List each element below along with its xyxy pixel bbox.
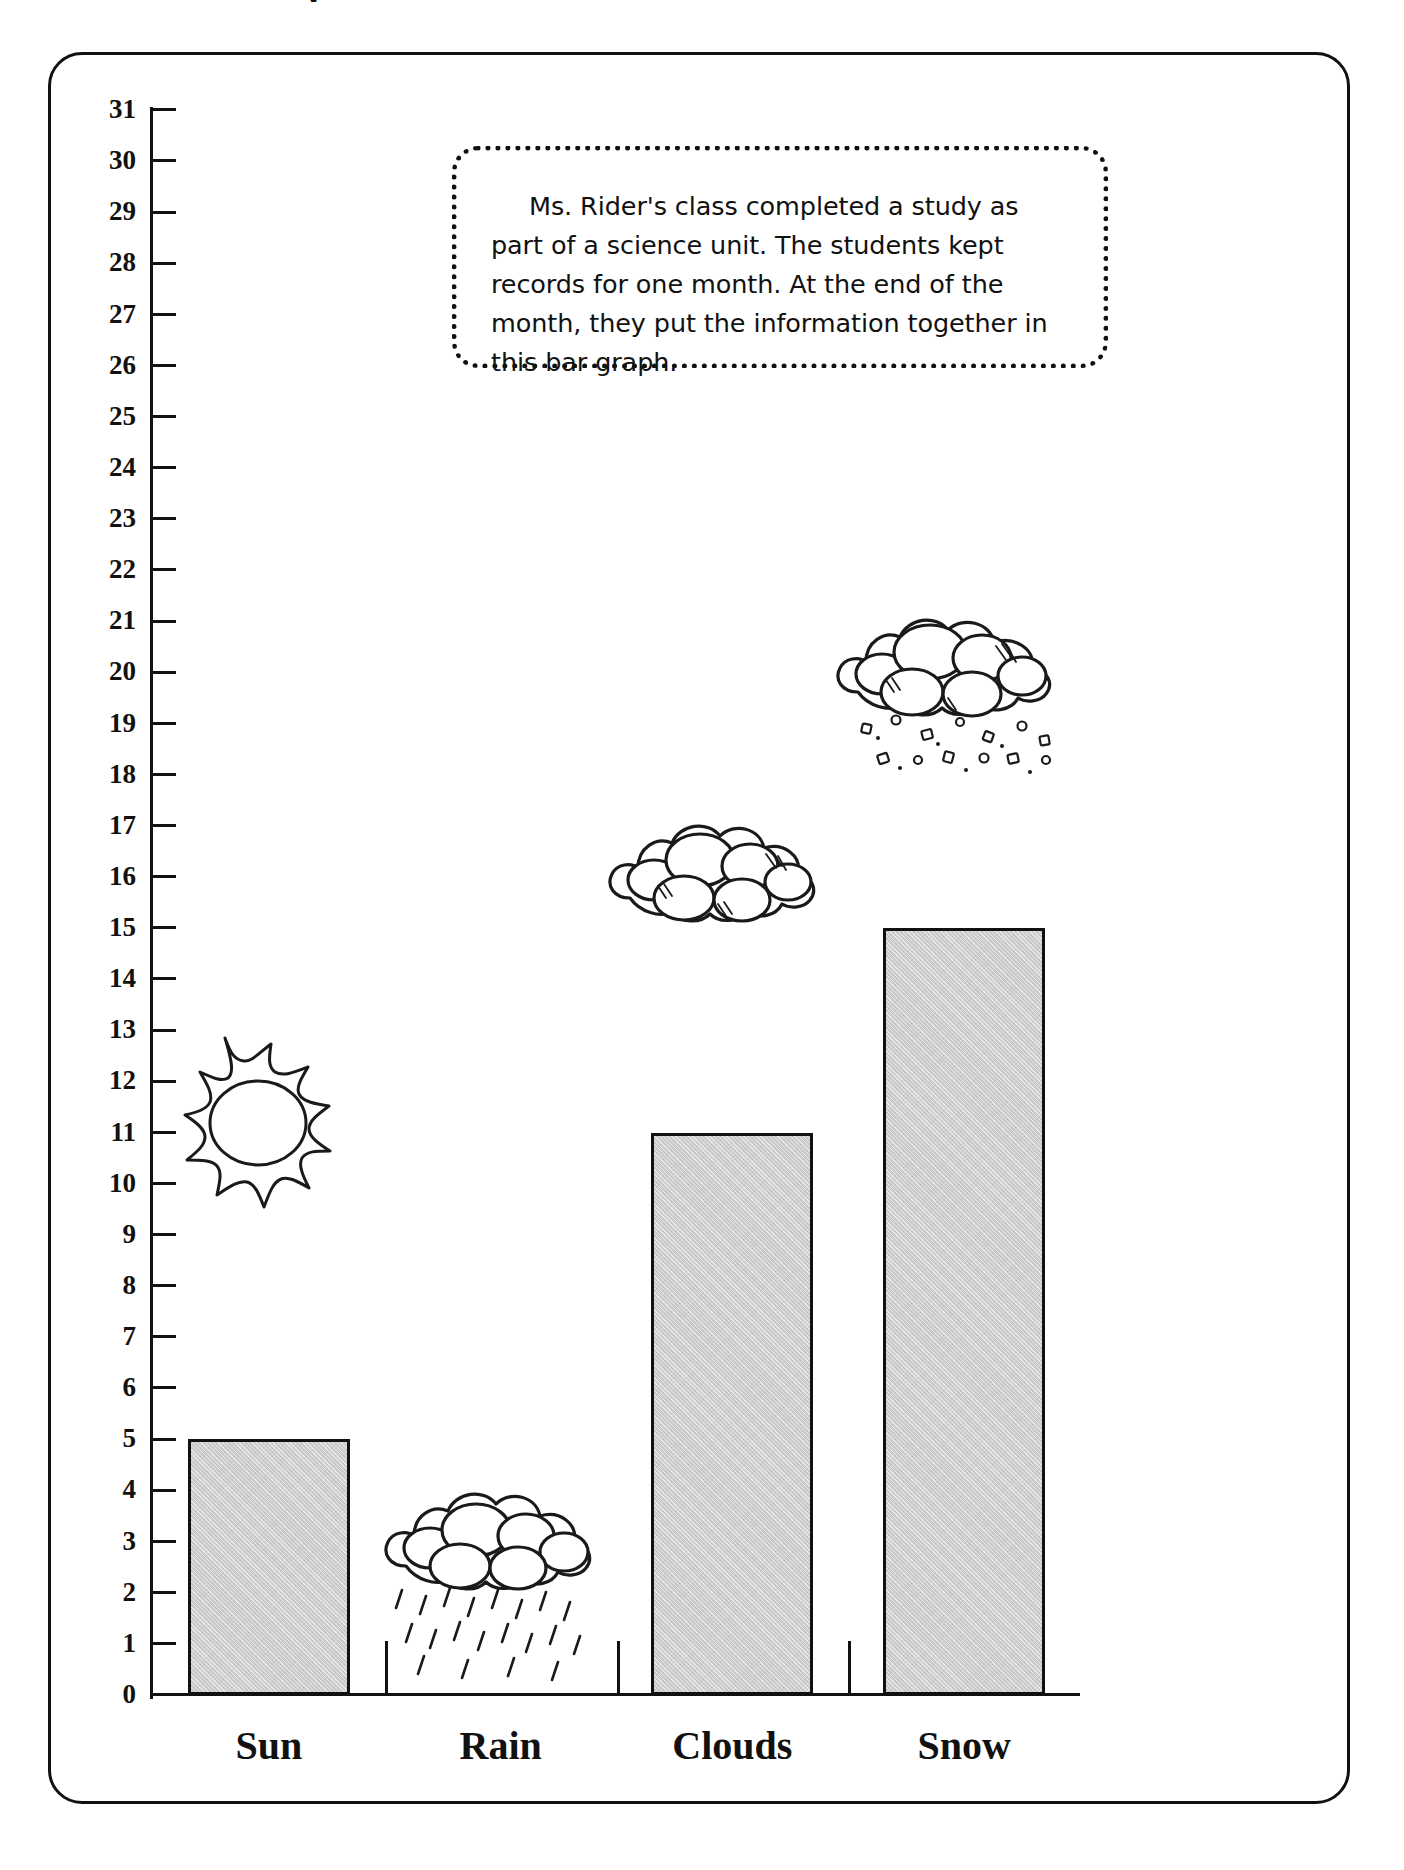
y-axis-tick bbox=[152, 875, 176, 878]
y-axis-tick bbox=[152, 466, 176, 469]
y-axis-tick bbox=[152, 364, 176, 367]
y-axis-tick bbox=[152, 415, 176, 418]
y-axis-tick bbox=[152, 977, 176, 980]
y-axis-tick-label: 21 bbox=[74, 607, 136, 634]
y-axis-tick-label: 12 bbox=[74, 1067, 136, 1094]
y-axis-tick bbox=[152, 159, 176, 162]
x-axis-separator bbox=[848, 1641, 851, 1693]
y-axis-tick bbox=[152, 671, 176, 674]
y-axis-tick-label: 1 bbox=[74, 1630, 136, 1657]
y-axis-tick-label: 7 bbox=[74, 1323, 136, 1350]
y-axis-tick bbox=[152, 517, 176, 520]
y-axis-tick bbox=[152, 1489, 176, 1492]
bar-sun bbox=[188, 1439, 350, 1695]
y-axis-tick bbox=[152, 108, 176, 111]
y-axis-tick bbox=[152, 1591, 176, 1594]
y-axis-tick bbox=[152, 211, 176, 214]
y-axis-tick-label: 10 bbox=[74, 1170, 136, 1197]
y-axis-tick bbox=[152, 262, 176, 265]
y-axis-tick bbox=[152, 722, 176, 725]
y-axis-tick-label: 31 bbox=[74, 96, 136, 123]
y-axis-tick-label: 20 bbox=[74, 658, 136, 685]
y-axis-tick-label: 27 bbox=[74, 301, 136, 328]
cloud-icon bbox=[600, 812, 830, 947]
sun-icon bbox=[168, 1030, 378, 1220]
y-axis-tick bbox=[152, 568, 176, 571]
y-axis-tick-label: 13 bbox=[74, 1016, 136, 1043]
y-axis-tick bbox=[152, 1693, 176, 1696]
y-axis-tick bbox=[152, 1335, 176, 1338]
y-axis-tick bbox=[152, 1284, 176, 1287]
y-axis-tick-label: 3 bbox=[74, 1528, 136, 1555]
y-axis-tick-label: 19 bbox=[74, 710, 136, 737]
category-label-snow: Snow bbox=[848, 1722, 1080, 1769]
y-axis-tick-label: 30 bbox=[74, 147, 136, 174]
y-axis-tick-label: 5 bbox=[74, 1425, 136, 1452]
bar-chart: 0123456789101112131415161718192021222324… bbox=[0, 0, 1404, 1870]
y-axis-tick bbox=[152, 926, 176, 929]
y-axis-tick bbox=[152, 1386, 176, 1389]
category-label-clouds: Clouds bbox=[617, 1722, 849, 1769]
y-axis-tick-label: 23 bbox=[74, 505, 136, 532]
y-axis-tick-label: 14 bbox=[74, 965, 136, 992]
y-axis-tick-label: 11 bbox=[74, 1119, 136, 1146]
y-axis-tick-label: 6 bbox=[74, 1374, 136, 1401]
snow-cloud-icon bbox=[826, 608, 1076, 783]
category-label-rain: Rain bbox=[385, 1722, 617, 1769]
y-axis-tick-label: 9 bbox=[74, 1221, 136, 1248]
y-axis-tick-label: 2 bbox=[74, 1579, 136, 1606]
y-axis-tick-label: 16 bbox=[74, 863, 136, 890]
y-axis-tick-label: 28 bbox=[74, 249, 136, 276]
y-axis-tick-label: 22 bbox=[74, 556, 136, 583]
bar-snow bbox=[883, 928, 1045, 1695]
y-axis-tick-label: 8 bbox=[74, 1272, 136, 1299]
y-axis-tick-label: 17 bbox=[74, 812, 136, 839]
y-axis-tick bbox=[152, 620, 176, 623]
rain-cloud-icon bbox=[368, 1478, 613, 1693]
y-axis-tick-label: 26 bbox=[74, 352, 136, 379]
y-axis-tick-label: 24 bbox=[74, 454, 136, 481]
category-label-sun: Sun bbox=[153, 1722, 385, 1769]
y-axis-tick bbox=[152, 773, 176, 776]
x-axis-separator bbox=[617, 1641, 620, 1693]
y-axis-line bbox=[150, 107, 153, 1699]
y-axis-tick bbox=[152, 824, 176, 827]
y-axis-tick-label: 15 bbox=[74, 914, 136, 941]
y-axis-tick bbox=[152, 1642, 176, 1645]
y-axis-tick bbox=[152, 313, 176, 316]
y-axis-tick-label: 25 bbox=[74, 403, 136, 430]
y-axis-tick bbox=[152, 1233, 176, 1236]
bar-clouds bbox=[651, 1133, 813, 1695]
y-axis-tick-label: 0 bbox=[74, 1681, 136, 1708]
y-axis-tick bbox=[152, 1438, 176, 1441]
y-axis-tick bbox=[152, 1540, 176, 1543]
y-axis-tick-label: 18 bbox=[74, 761, 136, 788]
y-axis-tick-label: 29 bbox=[74, 198, 136, 225]
y-axis-tick-label: 4 bbox=[74, 1476, 136, 1503]
